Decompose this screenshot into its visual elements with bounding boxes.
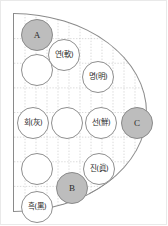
node-B[interactable]: B bbox=[56, 172, 88, 204]
node-label: B bbox=[69, 184, 75, 193]
node-blank-n9[interactable] bbox=[21, 153, 53, 185]
node-흑黑[interactable]: 흑(黑) bbox=[21, 191, 53, 223]
node-연軟[interactable]: 연(軟) bbox=[48, 39, 80, 71]
node-C[interactable]: C bbox=[121, 107, 153, 139]
node-label: 연(軟) bbox=[55, 51, 74, 59]
node-label: 명(明) bbox=[89, 73, 108, 81]
node-label: 진(眞) bbox=[90, 165, 109, 173]
node-명明[interactable]: 명(明) bbox=[82, 61, 114, 93]
node-label: 흑(黑) bbox=[28, 203, 47, 211]
node-label: 회(灰) bbox=[24, 119, 43, 127]
node-label: C bbox=[134, 119, 140, 128]
node-blank-n6[interactable] bbox=[51, 107, 83, 139]
color-tone-half-disc-figure: A연(軟)명(明)회(灰)선(鮮)C진(眞)B흑(黑) bbox=[0, 0, 168, 226]
node-회灰[interactable]: 회(灰) bbox=[17, 107, 49, 139]
node-label: 선(鮮) bbox=[92, 119, 111, 127]
node-blank-n4[interactable] bbox=[21, 54, 53, 86]
node-label: A bbox=[34, 31, 41, 40]
node-선鮮[interactable]: 선(鮮) bbox=[85, 107, 117, 139]
node-진眞[interactable]: 진(眞) bbox=[83, 153, 115, 185]
node-A[interactable]: A bbox=[21, 19, 53, 51]
